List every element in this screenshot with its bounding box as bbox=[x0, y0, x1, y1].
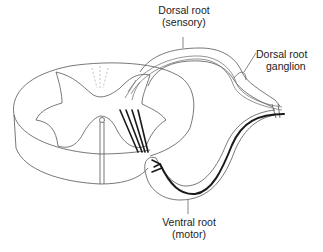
spinal-cord-diagram: Dorsal root (sensory) Dorsal root gangli… bbox=[0, 0, 323, 252]
motor-fiber bbox=[120, 110, 148, 152]
label-dorsal-root: Dorsal root (sensory) bbox=[152, 4, 216, 28]
diagram-canvas bbox=[0, 0, 323, 252]
label-ventral-root: Ventral root (motor) bbox=[150, 216, 228, 240]
spinal-cord-side bbox=[14, 115, 148, 184]
median-fissure bbox=[100, 122, 104, 184]
gray-matter bbox=[36, 72, 166, 147]
leader-ganglion bbox=[244, 53, 256, 72]
label-dorsal-root-ganglion: Dorsal root ganglion bbox=[256, 48, 307, 72]
